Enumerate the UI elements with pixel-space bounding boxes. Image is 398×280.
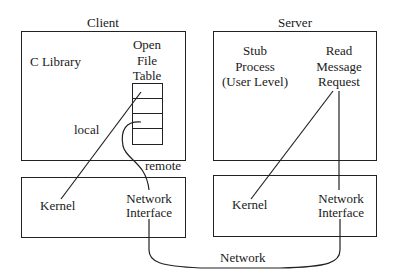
server-request-to-kernel-line [251,91,333,199]
connector-lines [0,0,398,280]
network-cable-line [149,219,340,268]
remote-path-line [122,122,149,190]
local-path-line [61,92,141,199]
diagram-canvas: Client C Library Open File Table local r… [0,0,398,280]
